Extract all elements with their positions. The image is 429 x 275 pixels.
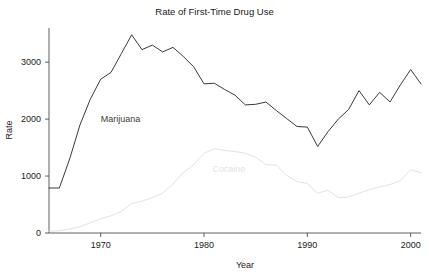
chart-title: Rate of First-Time Drug Use bbox=[155, 6, 273, 17]
y-tick-label: 2000 bbox=[21, 114, 41, 124]
y-tick-label: 0 bbox=[36, 228, 41, 238]
data-series-group bbox=[49, 35, 421, 231]
series-inline-labels: MarijuanaCocaine bbox=[101, 114, 246, 174]
line-chart: Rate of First-Time Drug Use Rate Year 01… bbox=[0, 0, 429, 275]
series-label-marijuana: Marijuana bbox=[101, 114, 141, 124]
y-tick-label: 3000 bbox=[21, 57, 41, 67]
y-axis-label: Rate bbox=[4, 120, 14, 139]
x-tick-label: 1980 bbox=[194, 240, 214, 250]
series-label-cocaine: Cocaine bbox=[212, 164, 245, 174]
chart-container: Rate of First-Time Drug Use Rate Year 01… bbox=[0, 0, 429, 275]
x-axis-ticks: 1970198019902000 bbox=[91, 233, 421, 250]
x-tick-label: 1990 bbox=[297, 240, 317, 250]
y-tick-label: 1000 bbox=[21, 171, 41, 181]
y-axis-ticks: 0100020003000 bbox=[21, 57, 49, 238]
x-axis-label: Year bbox=[236, 260, 254, 270]
x-tick-label: 2000 bbox=[401, 240, 421, 250]
series-line-cocaine bbox=[49, 149, 421, 232]
x-tick-label: 1970 bbox=[91, 240, 111, 250]
